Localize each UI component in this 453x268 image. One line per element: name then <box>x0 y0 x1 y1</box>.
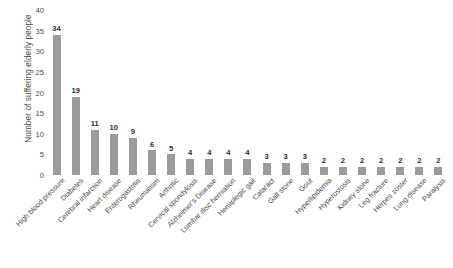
bar-slot: 10 <box>104 10 123 175</box>
bar <box>53 35 61 175</box>
bar-value-label: 2 <box>417 156 421 165</box>
bar-slot: 4 <box>219 10 238 175</box>
y-axis-tick: 20 <box>22 88 44 97</box>
bar-slot: 4 <box>181 10 200 175</box>
bar <box>282 163 290 175</box>
y-axis-tick: 35 <box>22 26 44 35</box>
bar-value-label: 2 <box>341 156 345 165</box>
bar-slot: 9 <box>123 10 142 175</box>
bar <box>224 159 232 176</box>
bar-slot: 2 <box>333 10 352 175</box>
bar-series: 3419111096544443332222222 <box>47 10 448 175</box>
bar-value-label: 11 <box>91 119 99 128</box>
bar-slot: 3 <box>257 10 276 175</box>
bar-value-label: 5 <box>169 144 173 153</box>
bar <box>91 130 99 175</box>
y-axis-tick-labels: 0510152025303540 <box>22 10 44 175</box>
bar-slot: 4 <box>238 10 257 175</box>
bar <box>243 159 251 176</box>
bar-slot: 4 <box>200 10 219 175</box>
bar-value-label: 2 <box>322 156 326 165</box>
bar <box>301 163 309 175</box>
bar-slot: 34 <box>47 10 66 175</box>
bar-slot: 2 <box>410 10 429 175</box>
bar-value-label: 4 <box>188 148 192 157</box>
bar-chart: Number of suffering elderly people 05101… <box>0 0 453 268</box>
y-axis-tick: 0 <box>22 171 44 180</box>
x-axis-tick-labels: High blood pressureDiabetesCerebral infa… <box>47 176 448 268</box>
bar-slot: 2 <box>429 10 448 175</box>
bar <box>186 159 194 176</box>
bar-value-label: 34 <box>52 24 60 33</box>
bar-slot: 2 <box>372 10 391 175</box>
bar-slot: 11 <box>85 10 104 175</box>
bar <box>415 167 423 175</box>
bar-value-label: 2 <box>436 156 440 165</box>
bar-value-label: 4 <box>226 148 230 157</box>
bar-value-label: 10 <box>110 123 118 132</box>
bar-value-label: 4 <box>245 148 249 157</box>
bar <box>377 167 385 175</box>
bar <box>434 167 442 175</box>
bar <box>205 159 213 176</box>
bar <box>320 167 328 175</box>
bar <box>263 163 271 175</box>
bar <box>110 134 118 175</box>
bar-value-label: 4 <box>207 148 211 157</box>
bar-value-label: 2 <box>360 156 364 165</box>
y-axis-tick: 15 <box>22 109 44 118</box>
bar <box>129 138 137 175</box>
bar <box>396 167 404 175</box>
bar <box>339 167 347 175</box>
bar-value-label: 6 <box>150 140 154 149</box>
y-axis-tick: 25 <box>22 67 44 76</box>
bar-slot: 5 <box>162 10 181 175</box>
bar-value-label: 2 <box>379 156 383 165</box>
bar-slot: 2 <box>353 10 372 175</box>
bar-value-label: 19 <box>71 86 79 95</box>
bar <box>148 150 156 175</box>
bar-value-label: 3 <box>264 152 268 161</box>
bar-slot: 6 <box>142 10 161 175</box>
bar-value-label: 9 <box>131 127 135 136</box>
bar <box>358 167 366 175</box>
bar-slot: 2 <box>314 10 333 175</box>
bar <box>72 97 80 175</box>
y-axis-tick: 30 <box>22 47 44 56</box>
bar-value-label: 3 <box>303 152 307 161</box>
bar-slot: 19 <box>66 10 85 175</box>
bar-slot: 3 <box>276 10 295 175</box>
bar <box>167 154 175 175</box>
plot-area: 3419111096544443332222222 <box>47 10 448 175</box>
y-axis-tick: 5 <box>22 150 44 159</box>
bar-value-label: 3 <box>284 152 288 161</box>
bar-slot: 3 <box>295 10 314 175</box>
y-axis-tick: 10 <box>22 129 44 138</box>
y-axis-tick: 40 <box>22 6 44 15</box>
bar-value-label: 2 <box>398 156 402 165</box>
bar-slot: 2 <box>391 10 410 175</box>
